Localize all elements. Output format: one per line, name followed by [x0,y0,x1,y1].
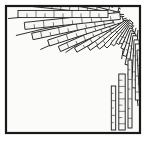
figure-canvas: Radiating ruler-bar fan illustration Bla… [0,0,151,152]
radial-bar-fan-figure: Radiating ruler-bar fan illustration Bla… [0,0,151,152]
long-vertical-ruler [119,74,125,130]
short-vertical-ruler [111,86,115,130]
ruler-bar [18,10,108,17]
vertical-ruler-body [128,60,132,128]
edge-vertical-ruler [128,60,132,128]
vertical-ruler-body [119,74,125,130]
